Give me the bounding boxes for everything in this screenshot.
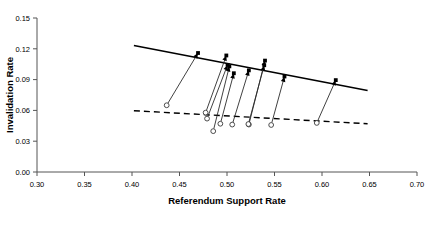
x-tick-label: 0.30 xyxy=(30,180,45,189)
start-circle-marker xyxy=(203,110,208,115)
start-circle-marker xyxy=(246,122,251,127)
arrow-shaft xyxy=(221,78,233,122)
arrow-shaft xyxy=(233,75,248,122)
axes-layer xyxy=(33,18,417,176)
x-tick-label: 0.60 xyxy=(315,180,330,189)
endpoint-square-marker xyxy=(263,59,267,63)
series-layer xyxy=(134,45,368,123)
x-tick-label: 0.40 xyxy=(125,180,140,189)
y-axis-title: Invalidation Rate xyxy=(4,57,15,133)
endpoint-square-marker xyxy=(227,64,231,68)
y-tick-label: 0.09 xyxy=(15,75,30,84)
x-axis-title: Referendum Support Rate xyxy=(168,195,286,206)
arrows-layer xyxy=(164,51,337,133)
start-circle-marker xyxy=(314,121,319,126)
endpoint-square-marker xyxy=(196,51,200,55)
arrow-shaft xyxy=(168,57,196,103)
arrow-shaft xyxy=(249,70,263,122)
arrow-shaft xyxy=(318,84,334,120)
arrow-segment xyxy=(314,78,337,125)
arrow-shaft xyxy=(272,81,283,123)
start-circle-marker xyxy=(205,116,210,121)
x-tick-label: 0.35 xyxy=(77,180,92,189)
y-tick-label: 0.03 xyxy=(15,137,30,146)
start-circle-marker xyxy=(164,103,169,108)
endpoint-square-marker xyxy=(224,54,228,58)
labels-layer: 0.000.030.060.090.120.150.300.350.400.45… xyxy=(4,14,424,206)
x-tick-label: 0.55 xyxy=(267,180,282,189)
arrow-segment xyxy=(164,51,200,108)
x-tick-label: 0.65 xyxy=(362,180,377,189)
endpoint-square-marker xyxy=(232,71,236,75)
x-tick-label: 0.70 xyxy=(410,180,425,189)
x-tick-label: 0.45 xyxy=(172,180,187,189)
chart-figure: 0.000.030.060.090.120.150.300.350.400.45… xyxy=(0,0,448,226)
chart-svg: 0.000.030.060.090.120.150.300.350.400.45… xyxy=(0,0,448,226)
endpoint-square-marker xyxy=(247,68,251,72)
y-tick-label: 0.06 xyxy=(15,106,30,115)
arrow-segment xyxy=(218,71,236,126)
x-tick-label: 0.50 xyxy=(220,180,235,189)
start-circle-marker xyxy=(269,123,274,128)
endpoint-square-marker xyxy=(334,78,338,82)
endpoint-square-marker xyxy=(283,75,287,79)
y-tick-label: 0.12 xyxy=(15,45,30,54)
y-tick-label: 0.00 xyxy=(15,168,30,177)
start-circle-marker xyxy=(218,121,223,126)
endpoint-square-marker xyxy=(262,63,266,67)
start-circle-marker xyxy=(230,122,235,127)
arrow-shaft xyxy=(207,60,225,111)
start-circle-marker xyxy=(211,129,216,134)
y-tick-label: 0.15 xyxy=(15,14,30,23)
